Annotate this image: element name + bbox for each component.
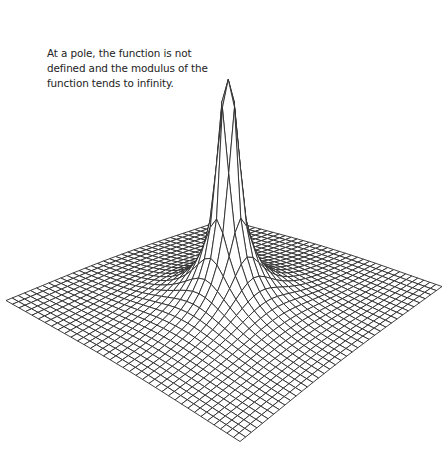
- caption-line-2: defined and the modulus of the: [47, 61, 277, 76]
- caption-line-1: At a pole, the function is not: [47, 46, 277, 61]
- caption: At a pole, the function is not defined a…: [47, 46, 277, 91]
- caption-line-3: function tends to infinity.: [47, 76, 277, 91]
- wireframe-mesh: [6, 80, 442, 442]
